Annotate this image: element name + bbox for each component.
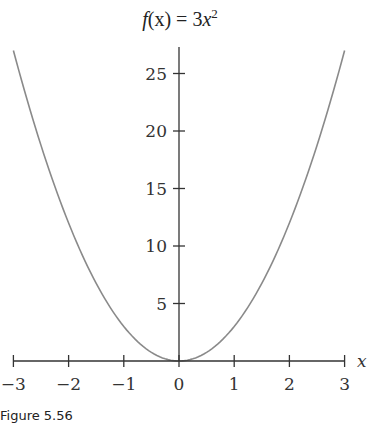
x-tick-label: −2 (56, 374, 81, 394)
y-tick-label: 25 (145, 64, 167, 84)
x-tick-label: −3 (1, 374, 26, 394)
y-tick-label: 5 (156, 294, 167, 314)
y-tick-label: 20 (145, 121, 167, 141)
x-tick-label: 2 (284, 374, 295, 394)
y-tick-label: 10 (145, 236, 167, 256)
y-tick-labels: 510152025 (145, 64, 167, 314)
x-tick-label: −1 (111, 374, 136, 394)
x-tick-label: 1 (229, 374, 240, 394)
x-tick-labels: −3−2−10123 (1, 374, 350, 394)
y-tick-label: 15 (145, 179, 167, 199)
parabola-chart: f(x) = 3x2 −3−2−10123 510152025 x (0, 0, 378, 405)
x-axis-label: x (357, 351, 367, 371)
x-tick-label: 0 (174, 374, 185, 394)
chart-title: f(x) = 3x2 (142, 6, 218, 31)
figure-caption: Figure 5.56 (0, 408, 73, 423)
x-tick-label: 3 (339, 374, 350, 394)
